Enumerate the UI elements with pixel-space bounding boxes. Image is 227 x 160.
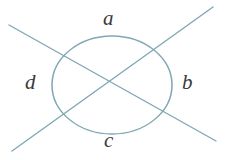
angle-label-b: b	[182, 72, 193, 93]
angle-label-c: c	[104, 130, 113, 151]
angle-label-a: a	[103, 8, 114, 29]
geometry-figure: a b c d	[0, 0, 227, 160]
angle-label-d: d	[25, 72, 36, 93]
angle-circle	[52, 36, 172, 134]
